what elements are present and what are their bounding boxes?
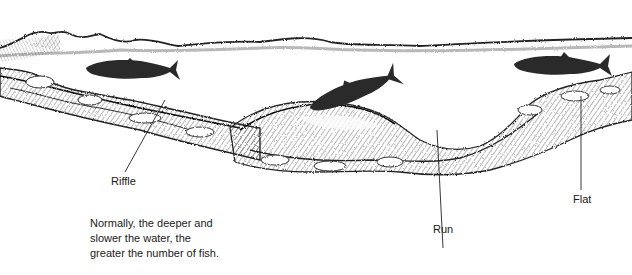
- caption-line: greater the number of fish.: [90, 246, 219, 261]
- fish-icon: [514, 52, 612, 76]
- fish-icon: [86, 58, 180, 80]
- run-label: Run: [433, 224, 453, 235]
- run-channel-bed: [230, 72, 632, 175]
- flat-label: Flat: [573, 194, 591, 205]
- caption-line: Normally, the deeper and: [90, 216, 219, 231]
- caption-line: slower the water, the: [90, 231, 219, 246]
- caption: Normally, the deeper and slower the wate…: [90, 216, 219, 261]
- riffle-label: Riffle: [111, 176, 136, 187]
- riffle-bed: [0, 68, 260, 160]
